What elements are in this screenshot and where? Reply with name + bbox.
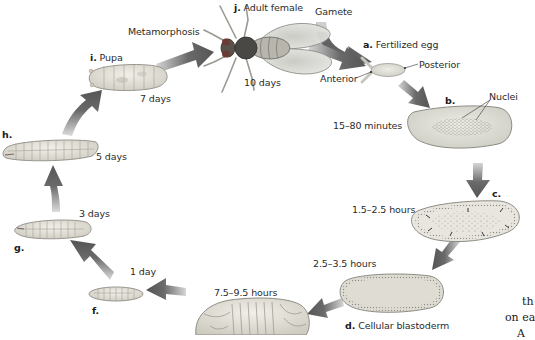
stage-b-letter-text: b. bbox=[445, 95, 455, 106]
egg-stage-c bbox=[411, 201, 519, 242]
stage-a-letter: a. bbox=[363, 39, 373, 50]
stage-d-letter: d. bbox=[345, 320, 355, 331]
g-to-h-arrow bbox=[44, 165, 63, 212]
stage-g-letter: g. bbox=[14, 242, 24, 253]
stage-j-label: j. Adult female bbox=[234, 2, 303, 13]
stage-i-name: Pupa bbox=[100, 52, 123, 63]
egg-to-b-arrow bbox=[398, 80, 430, 108]
egg-stage-b bbox=[408, 100, 512, 148]
stage-d-label: d. Cellular blastoderm bbox=[345, 320, 449, 331]
stage-j-time: 10 days bbox=[244, 77, 281, 88]
metamorphosis-label: Metamorphosis bbox=[128, 26, 200, 37]
embryo-stage-e bbox=[196, 298, 309, 335]
cropped-text-line-1: th bbox=[522, 295, 534, 308]
fertilized-egg bbox=[356, 58, 418, 82]
stage-a-name: Fertilized egg bbox=[376, 39, 439, 50]
larva-stage-g bbox=[15, 220, 91, 239]
stage-d-time: 2.5–3.5 hours bbox=[313, 258, 376, 269]
stage-i-label: i. Pupa bbox=[90, 52, 123, 63]
cropped-text-line-2: on ea bbox=[505, 311, 535, 324]
stage-j-letter: j. bbox=[234, 2, 241, 13]
cropped-text-line-3: A bbox=[517, 327, 525, 340]
stage-f-letter-text: f. bbox=[92, 305, 99, 316]
posterior-label: Posterior bbox=[419, 59, 460, 70]
e-to-f-arrow bbox=[146, 278, 186, 300]
stage-j-name: Adult female bbox=[244, 2, 303, 13]
cellular-blastoderm bbox=[340, 274, 443, 312]
stage-g-letter-text: g. bbox=[14, 242, 24, 253]
stage-c-letter: c. bbox=[492, 188, 501, 199]
stage-e-time: 7.5–9.5 hours bbox=[214, 287, 277, 298]
stage-i-letter: i. bbox=[90, 52, 97, 63]
stage-h-letter-text: h. bbox=[2, 129, 12, 140]
stage-d-name: Cellular blastoderm bbox=[358, 320, 449, 331]
stage-b-letter: b. bbox=[445, 95, 455, 106]
metamorphosis-arrow bbox=[156, 42, 214, 72]
stage-h-letter: h. bbox=[2, 129, 12, 140]
stage-b-time: 15–80 minutes bbox=[333, 120, 402, 131]
stage-f-time: 1 day bbox=[130, 266, 156, 277]
stage-i-time: 7 days bbox=[140, 93, 171, 104]
h-to-i-arrow bbox=[62, 90, 102, 136]
stage-a-label: a. Fertilized egg bbox=[363, 39, 438, 50]
stage-f-letter: f. bbox=[92, 305, 99, 316]
stage-c-time: 1.5–2.5 hours bbox=[352, 204, 415, 215]
nuclei-label: Nuclei bbox=[489, 91, 518, 102]
stage-g-time: 3 days bbox=[79, 208, 110, 219]
stage-c-letter-text: c. bbox=[492, 188, 501, 199]
b-to-c-arrow bbox=[466, 163, 490, 198]
pupa bbox=[89, 65, 167, 91]
larva-stage-h bbox=[3, 140, 98, 161]
anterior-label: Anterior bbox=[320, 73, 358, 84]
gamete-label: Gamete bbox=[315, 6, 352, 17]
stage-h-time: 5 days bbox=[96, 151, 127, 162]
f-to-g-arrow bbox=[70, 240, 114, 280]
larva-stage-f bbox=[89, 287, 143, 301]
d-to-e-arrow bbox=[307, 298, 344, 318]
